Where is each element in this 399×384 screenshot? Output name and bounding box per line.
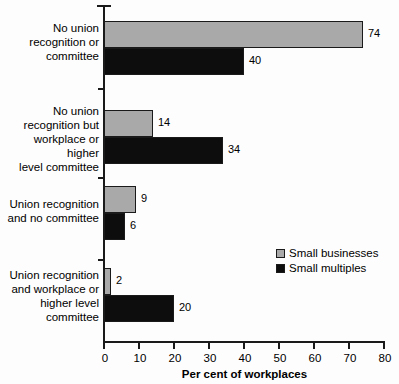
bar-small-multiples-1[interactable]	[104, 48, 244, 75]
bar-small-businesses-4[interactable]	[104, 268, 111, 295]
category-axis-labels: No union recognition or committee No uni…	[0, 0, 99, 384]
x-axis-tick-label: 50	[265, 352, 295, 364]
bar-value-label: 6	[130, 220, 136, 231]
legend-label: Small multiples	[289, 261, 366, 276]
bar-small-businesses-2[interactable]	[104, 110, 153, 137]
bar-value-label: 74	[368, 28, 380, 39]
x-axis-tick-label: 30	[195, 352, 225, 364]
x-axis-tick	[313, 341, 315, 349]
category-label-line: level committee	[0, 160, 99, 174]
bar-small-multiples-3[interactable]	[104, 213, 125, 240]
category-label-line: and workplace or	[0, 282, 99, 296]
bar-value-label: 20	[179, 302, 191, 313]
category-label-3: Union recognition and no committee	[0, 197, 99, 225]
bar-small-multiples-2[interactable]	[104, 137, 223, 164]
category-label-line: Union recognition	[0, 197, 99, 211]
category-label-line: and no committee	[0, 211, 99, 225]
horizontal-bar-chart: No union recognition or committee No uni…	[0, 0, 399, 384]
x-axis-tick-label: 0	[90, 352, 120, 364]
x-axis-tick	[278, 341, 280, 349]
chart-legend: Small businesses Small multiples	[276, 246, 378, 276]
x-axis-tick	[208, 341, 210, 349]
category-label-line: No union	[0, 21, 99, 35]
bar-value-label: 34	[228, 144, 240, 155]
bar-small-businesses-3[interactable]	[104, 186, 136, 213]
bar-value-label: 9	[141, 193, 147, 204]
bar-small-businesses-1[interactable]	[104, 21, 363, 48]
x-axis-tick-label: 80	[370, 352, 399, 364]
category-label-line: workplace or higher	[0, 132, 99, 160]
x-axis-tick-label: 40	[230, 352, 260, 364]
x-axis-tick	[348, 341, 350, 349]
legend-swatch-icon	[276, 264, 285, 273]
bar-value-label: 40	[249, 55, 261, 66]
x-axis-tick-label: 10	[125, 352, 155, 364]
x-axis-tick	[243, 341, 245, 349]
x-axis-tick-label: 70	[335, 352, 365, 364]
category-label-line: recognition but	[0, 118, 99, 132]
legend-label: Small businesses	[289, 246, 378, 261]
x-axis-tick-label: 20	[160, 352, 190, 364]
x-axis-tick	[383, 341, 385, 349]
category-label-line: higher level	[0, 296, 99, 310]
category-label-1: No union recognition or committee	[0, 21, 99, 63]
bar-value-label: 2	[116, 275, 122, 286]
x-axis-title: Per cent of workplaces	[104, 368, 385, 380]
legend-swatch-icon	[276, 249, 285, 258]
category-label-4: Union recognition and workplace or highe…	[0, 268, 99, 324]
legend-item-small-businesses[interactable]: Small businesses	[276, 246, 378, 261]
x-axis-tick	[138, 341, 140, 349]
plot-area: 74 40 14 34 9 6 2 20	[104, 6, 384, 341]
category-label-line: committee	[0, 310, 99, 324]
bar-small-multiples-4[interactable]	[104, 295, 174, 322]
category-label-line: No union	[0, 104, 99, 118]
x-axis-tick	[103, 341, 105, 349]
legend-item-small-multiples[interactable]: Small multiples	[276, 261, 378, 276]
category-label-2: No union recognition but workplace or hi…	[0, 104, 99, 174]
x-axis-tick	[173, 341, 175, 349]
category-label-line: Union recognition	[0, 268, 99, 282]
x-axis-tick-label: 60	[300, 352, 330, 364]
category-label-line: committee	[0, 49, 99, 63]
category-label-line: recognition or	[0, 35, 99, 49]
bar-value-label: 14	[158, 117, 170, 128]
